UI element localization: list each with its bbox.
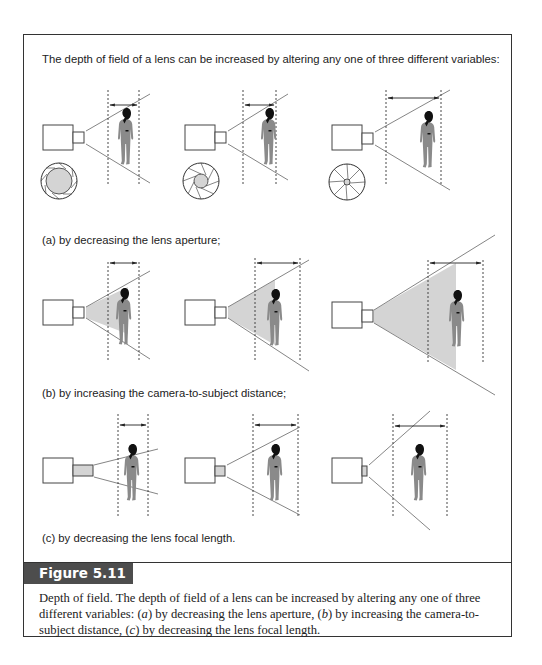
panel-b2: [185, 258, 309, 371]
caption-letter-b: b: [322, 607, 328, 621]
panel-b1: [43, 262, 150, 362]
panel-b3: [332, 235, 495, 395]
row-c-label: (c) by decreasing the lens focal length.: [42, 532, 235, 544]
panel-a2: [183, 90, 288, 199]
caption-letter-c: c: [130, 623, 136, 637]
row-b-diagrams: [43, 235, 495, 395]
caption-letter-a: a: [142, 607, 148, 621]
panel-c1: [43, 414, 158, 517]
row-a-label: (a) by decreasing the lens aperture;: [42, 234, 220, 246]
figure-number-label: Figure 5.11: [24, 563, 133, 584]
caption-text-4: by decreasing the lens focal length.: [139, 623, 320, 637]
caption-text-2: by decreasing the lens aperture,: [152, 607, 317, 621]
panel-a1: [41, 90, 150, 199]
panel-c3: [332, 411, 447, 530]
figure-caption: Depth of field. The depth of field of a …: [39, 590, 499, 638]
row-a-diagrams: [41, 90, 450, 200]
panel-a3: [329, 90, 450, 200]
row-b-label: (b) by increasing the camera-to-subject …: [42, 387, 286, 399]
row-c-diagrams: [43, 411, 447, 530]
panel-c2: [185, 414, 300, 517]
